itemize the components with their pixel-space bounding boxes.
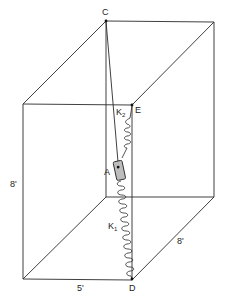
- depth-edges: [23, 21, 214, 280]
- dimension-width: 5': [77, 284, 84, 293]
- label-k1: K1: [108, 222, 117, 232]
- box-diagram: [0, 0, 225, 304]
- dimension-depth: 8': [177, 237, 184, 246]
- label-e: E: [135, 106, 141, 115]
- label-k2-sub: 2: [122, 112, 125, 118]
- label-k2: K2: [116, 108, 125, 118]
- collar-a: [113, 160, 126, 180]
- label-c: C: [102, 8, 109, 17]
- point-c-dot: [105, 20, 108, 23]
- spring-k1: [117, 181, 134, 279]
- label-d: D: [129, 284, 136, 293]
- rod-c-to-a: [106, 21, 118, 162]
- point-e-dot: [131, 104, 134, 107]
- label-k1-sub: 1: [114, 226, 117, 232]
- dimension-height: 8': [10, 180, 17, 189]
- point-d-dot: [131, 278, 134, 281]
- label-a: A: [104, 168, 110, 177]
